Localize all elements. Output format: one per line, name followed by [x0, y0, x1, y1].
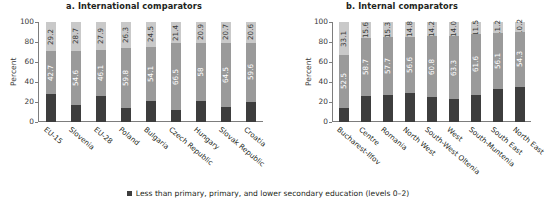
bar-slot: 29.242.7: [39, 22, 64, 122]
segment-tertiary: 24.5: [146, 22, 156, 47]
x-label-slot: Bulgaria: [138, 124, 163, 178]
segment-value-label: 14.8: [406, 21, 413, 37]
y-axis-tick: 40: [12, 78, 34, 85]
stacked-bar-a-4[interactable]: 24.554.1: [146, 22, 156, 122]
panel-b-title: b. Internal comparators: [268, 1, 536, 11]
bar-slot: 28.754.6: [64, 22, 89, 122]
segment-tertiary: 10.2: [515, 22, 525, 32]
panel-b-x-axis-labels: Bucharest-IlfovCentreRomaniaNorth WestSo…: [332, 124, 530, 178]
x-label-slot: North West: [398, 124, 420, 178]
segment-upper-secondary: 59.8: [121, 48, 131, 108]
bar-slot: 20.764.5: [213, 22, 238, 122]
bar-slot: 20.958: [188, 22, 213, 122]
segment-value-label: 21.4: [172, 25, 179, 41]
x-label-slot: Croatia: [237, 124, 262, 178]
segment-upper-secondary: 54.1: [146, 47, 156, 101]
stacked-bar-b-6[interactable]: 11.561.6: [471, 22, 481, 122]
segment-upper-secondary: 46.1: [96, 50, 106, 96]
segment-value-label: 58: [197, 67, 204, 76]
segment-upper-secondary: 54.3: [515, 32, 525, 86]
segment-lower-secondary: [196, 101, 206, 122]
bar-slot: 11.256.1: [487, 22, 509, 122]
segment-value-label: 52.5: [340, 73, 347, 89]
segment-value-label: 26.3: [123, 27, 130, 43]
stacked-bar-b-8[interactable]: 10.254.3: [515, 22, 525, 122]
x-label-slot: Romania: [376, 124, 398, 178]
segment-lower-secondary: [471, 95, 481, 122]
stacked-bar-a-0[interactable]: 29.242.7: [46, 22, 56, 122]
bar-slot: 24.554.1: [139, 22, 164, 122]
segment-value-label: 64.5: [222, 67, 229, 83]
stacked-bar-b-1[interactable]: 15.658.7: [361, 22, 371, 122]
segment-lower-secondary: [46, 94, 56, 122]
y-axis-tick: 60: [306, 58, 328, 65]
panel-a-title: a. International comparators: [0, 1, 268, 11]
segment-tertiary: 14.0: [449, 22, 459, 36]
stacked-bar-b-7[interactable]: 11.256.1: [493, 22, 503, 122]
segment-value-label: 20.6: [247, 24, 254, 40]
segment-value-label: 15.6: [362, 22, 369, 38]
y-axis-tick: 80: [12, 38, 34, 45]
segment-value-label: 28.7: [73, 28, 80, 44]
segment-upper-secondary: 58.7: [361, 38, 371, 97]
segment-lower-secondary: [71, 105, 81, 122]
segment-upper-secondary: 58: [196, 43, 206, 101]
stacked-bar-a-1[interactable]: 28.754.6: [71, 22, 81, 122]
segment-value-label: 14.0: [450, 21, 457, 37]
y-axis-tick: 20: [12, 98, 34, 105]
stacked-bar-b-5[interactable]: 14.063.3: [449, 22, 459, 122]
stacked-bar-b-2[interactable]: 15.357.7: [383, 22, 393, 122]
segment-upper-secondary: 56.1: [493, 33, 503, 89]
segment-upper-secondary: 60.8: [427, 36, 437, 97]
segment-tertiary: 29.2: [46, 22, 56, 51]
segment-tertiary: 15.6: [361, 22, 371, 38]
segment-tertiary: 20.7: [221, 22, 231, 43]
bar-slot: 15.658.7: [355, 22, 377, 122]
segment-tertiary: 26.3: [121, 22, 131, 48]
bar-slot: 14.260.8: [421, 22, 443, 122]
segment-value-label: 58.7: [362, 59, 369, 75]
segment-upper-secondary: 59.6: [246, 43, 256, 103]
y-axis-tick: 20: [306, 98, 328, 105]
stacked-bar-a-5[interactable]: 21.466.5: [171, 22, 181, 122]
segment-tertiary: 21.4: [171, 22, 181, 43]
stacked-bar-b-3[interactable]: 14.856.6: [405, 22, 415, 122]
x-label-slot: Centre: [354, 124, 376, 178]
segment-upper-secondary: 42.7: [46, 51, 56, 94]
x-label-slot: West: [442, 124, 464, 178]
bar-slot: 27.946.1: [89, 22, 114, 122]
segment-value-label: 15.3: [384, 22, 391, 38]
panel-a-plot-area: 29.242.728.754.627.946.126.359.824.554.1…: [38, 22, 263, 122]
stacked-bar-a-6[interactable]: 20.958: [196, 22, 206, 122]
x-label-slot: Hungary: [187, 124, 212, 178]
y-axis-tick: 0: [12, 118, 34, 125]
segment-value-label: 56.1: [494, 53, 501, 69]
segment-value-label: 60.8: [428, 59, 435, 75]
segment-value-label: 54.3: [516, 51, 523, 67]
stacked-bar-a-3[interactable]: 26.359.8: [121, 22, 131, 122]
x-axis-label: North East: [511, 125, 546, 156]
bar-slot: 33.152.5: [333, 22, 355, 122]
segment-value-label: 46.1: [98, 65, 105, 81]
segment-value-label: 54.6: [73, 70, 80, 86]
segment-lower-secondary: [96, 96, 106, 122]
segment-value-label: 14.2: [428, 21, 435, 37]
segment-lower-secondary: [515, 87, 525, 123]
bar-slot: 11.561.6: [465, 22, 487, 122]
bar-slot: 20.659.6: [238, 22, 263, 122]
panel-b-plot-area: 33.152.515.658.715.357.714.856.614.260.8…: [332, 22, 531, 122]
segment-lower-secondary: [405, 93, 415, 122]
stacked-bar-a-2[interactable]: 27.946.1: [96, 22, 106, 122]
segment-value-label: 56.6: [406, 57, 413, 73]
stacked-bar-a-7[interactable]: 20.764.5: [221, 22, 231, 122]
stacked-bar-a-8[interactable]: 20.659.6: [246, 22, 256, 122]
panel-a-x-axis-labels: EU-15SloveniaEU-28PolandBulgariaCzech Re…: [38, 124, 262, 178]
stacked-bar-b-0[interactable]: 33.152.5: [339, 22, 349, 122]
segment-tertiary: 28.7: [71, 22, 81, 51]
segment-upper-secondary: 64.5: [221, 43, 231, 108]
segment-value-label: 20.9: [197, 24, 204, 40]
stacked-bar-b-4[interactable]: 14.260.8: [427, 22, 437, 122]
y-axis-tick: 100: [306, 18, 328, 25]
segment-lower-secondary: [121, 108, 131, 122]
